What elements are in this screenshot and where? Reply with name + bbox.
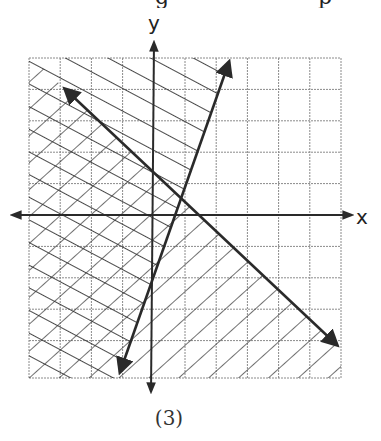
figure-caption: (3)	[0, 406, 338, 430]
x-axis-label: x	[356, 205, 368, 229]
y-axis-label: y	[148, 11, 160, 35]
inequality-graph: x y	[0, 0, 381, 441]
